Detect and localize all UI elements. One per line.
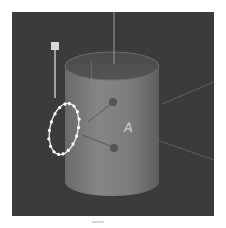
pivot-dot-icon[interactable]	[109, 98, 117, 106]
guide-line-lower	[157, 140, 214, 160]
bottom-marker	[92, 221, 104, 223]
pivot-dot-icon[interactable]	[110, 144, 118, 152]
move-handle-icon[interactable]	[51, 42, 59, 50]
scene-canvas[interactable]	[12, 12, 214, 216]
guide-line-upper	[162, 82, 214, 104]
3d-viewport[interactable]: A	[12, 12, 214, 216]
cylinder-body[interactable]	[65, 66, 159, 196]
cylinder-top[interactable]	[65, 52, 159, 80]
